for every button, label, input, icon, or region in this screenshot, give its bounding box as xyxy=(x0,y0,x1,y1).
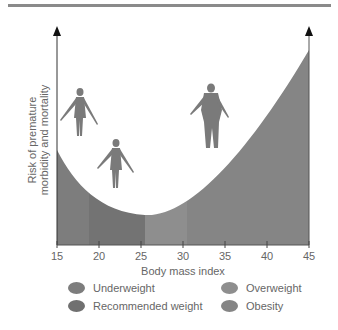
legend-swatch-icon xyxy=(221,300,238,312)
x-axis-label: Body mass index xyxy=(0,265,338,277)
legend-label: Recommended weight xyxy=(93,300,202,312)
y-axis-arrow-icon xyxy=(53,26,61,36)
legend-item-overweight: Overweight xyxy=(221,282,302,294)
x-tick-20: 20 xyxy=(89,250,109,262)
region-overweight xyxy=(145,30,187,245)
legend-item-underweight: Underweight xyxy=(68,282,155,294)
bmi-risk-chart xyxy=(0,0,338,330)
recommended-figure-icon xyxy=(97,139,134,188)
x-tick-15: 15 xyxy=(47,250,67,262)
legend-swatch-icon xyxy=(221,282,238,294)
legend-label: Overweight xyxy=(246,282,302,294)
legend-item-recommended: Recommended weight xyxy=(68,300,202,312)
region-underweight xyxy=(57,30,89,245)
obese-figure-icon xyxy=(190,84,229,149)
legend-label: Underweight xyxy=(93,282,155,294)
y-axis-label-line2: morbidity and mortality xyxy=(38,70,50,210)
underweight-figure-icon xyxy=(60,88,98,136)
x-tick-35: 35 xyxy=(215,250,235,262)
y-axis-label: Risk of premature morbidity and mortalit… xyxy=(26,70,50,210)
x-tick-25: 25 xyxy=(131,250,151,262)
x-tick-45: 45 xyxy=(299,250,319,262)
right-axis-arrow-icon xyxy=(305,26,313,36)
y-axis-label-line1: Risk of premature xyxy=(26,70,38,210)
legend-item-obesity: Obesity xyxy=(221,300,283,312)
legend-swatch-icon xyxy=(68,300,85,312)
x-tick-40: 40 xyxy=(257,250,277,262)
risk-area xyxy=(57,30,309,245)
legend-label: Obesity xyxy=(246,300,283,312)
region-recommended xyxy=(89,30,145,245)
x-tick-30: 30 xyxy=(173,250,193,262)
legend-swatch-icon xyxy=(68,282,85,294)
